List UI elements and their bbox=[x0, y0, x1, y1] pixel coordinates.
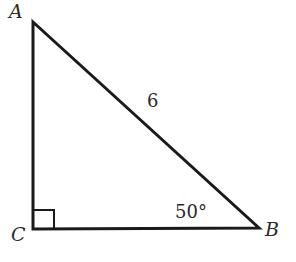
vertex-label-a: A bbox=[7, 0, 23, 22]
vertex-label-c: C bbox=[11, 223, 26, 245]
hypotenuse-length-label: 6 bbox=[147, 90, 158, 111]
vertex-label-b: B bbox=[264, 218, 279, 240]
triangle-diagram: A B C 6 50° bbox=[0, 0, 296, 262]
triangle-abc bbox=[33, 22, 259, 229]
angle-b-label: 50° bbox=[175, 201, 207, 222]
right-angle-marker bbox=[33, 210, 54, 229]
